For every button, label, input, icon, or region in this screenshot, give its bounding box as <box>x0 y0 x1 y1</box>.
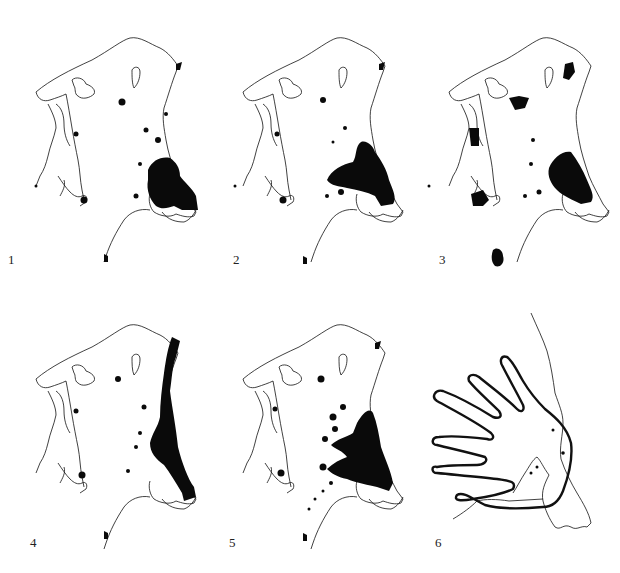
map-panel-6: 6 <box>413 287 620 573</box>
map-panel-3: 3 <box>413 0 620 286</box>
panel-label: 2 <box>233 252 240 268</box>
map-5 <box>207 287 414 573</box>
map-panel-4: 4 <box>0 287 207 573</box>
panel-label: 3 <box>439 252 446 268</box>
urban-area <box>147 158 198 211</box>
map-2 <box>207 0 414 286</box>
map-3 <box>413 0 620 286</box>
map-6 <box>413 287 620 573</box>
finger-plan-hand-outline <box>433 357 572 509</box>
map-4 <box>0 287 207 573</box>
map-panel-5: 5 <box>207 287 414 573</box>
map-1 <box>0 0 207 286</box>
panel-label: 6 <box>435 535 442 551</box>
panel-label: 4 <box>30 535 37 551</box>
map-panel-2: 2 <box>207 0 414 286</box>
panel-label: 5 <box>229 535 236 551</box>
panel-label: 1 <box>8 252 15 268</box>
map-panel-1: 1 <box>0 0 207 286</box>
